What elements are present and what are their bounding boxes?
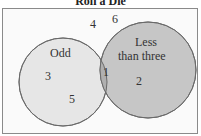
- element-6: 6: [112, 13, 118, 25]
- venn-circles: [0, 0, 201, 136]
- element-5: 5: [69, 93, 75, 105]
- set-label-odd: Odd: [50, 47, 71, 59]
- element-1: 1: [103, 66, 109, 78]
- set-label-less-line2: than three: [118, 50, 166, 62]
- element-4: 4: [90, 18, 96, 30]
- element-3: 3: [45, 70, 51, 82]
- element-2: 2: [136, 75, 142, 87]
- set-label-less-line1: Less: [135, 36, 157, 48]
